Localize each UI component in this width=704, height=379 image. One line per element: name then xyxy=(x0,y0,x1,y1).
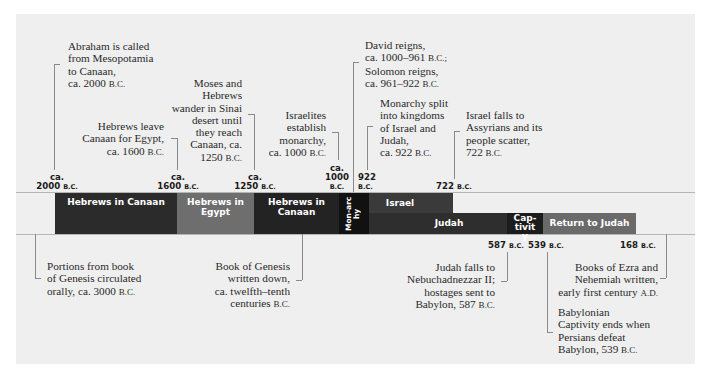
band-hebrews-in-canaan-2: Hebrews in Canaan xyxy=(254,193,339,234)
leader-line-monarchy xyxy=(338,132,339,160)
band-return-to-judah: Return to Judah xyxy=(543,213,636,234)
band-label: Israel xyxy=(386,198,414,208)
band-monarchy: Mon-archy xyxy=(339,193,369,234)
band-label: Judah xyxy=(435,218,464,228)
note-portions-genesis: Portions from book of Genesis circulated… xyxy=(47,260,141,298)
leader-line-portions xyxy=(35,234,36,278)
band-label: Hebrews in Canaan xyxy=(265,197,329,217)
note-ezra-nehemiah: Books of Ezra and Nehemiah written, earl… xyxy=(550,261,658,299)
date-label-722: 722 B.C. xyxy=(436,182,486,192)
leader-tick-genesis xyxy=(296,280,302,281)
note-judah-falls: Judah falls to Nebuchadnezzar II; hostag… xyxy=(395,261,495,311)
leader-line-captivity-ends xyxy=(547,252,548,332)
note-monarchy: Israelites establish monarchy, ca. 1000 … xyxy=(254,109,326,159)
note-captivity-ends: Babylonian Captivity ends when Persians … xyxy=(558,306,650,356)
leader-tick-monarchy xyxy=(332,132,338,133)
leader-line-ezra xyxy=(666,234,667,278)
leader-tick-captivity-ends xyxy=(547,332,553,333)
band-hebrews-in-canaan-1: Hebrews in Canaan xyxy=(55,193,177,234)
leader-line-split xyxy=(367,126,368,170)
date-label-1600: ca.1600 B.C. xyxy=(153,173,203,192)
date-label-922: 922B.C. xyxy=(358,173,380,192)
leader-line-israel-falls xyxy=(454,131,455,179)
note-israel-falls: Israel falls to Assyrians and its people… xyxy=(466,109,542,159)
leader-line-david xyxy=(353,62,354,192)
band-israel: Israel xyxy=(369,193,453,213)
leader-line-abraham xyxy=(54,64,55,170)
note-david-solomon: David reigns, ca. 1000–961 B.C.; Solomon… xyxy=(365,39,447,90)
date-label-2000: ca.2000 B.C. xyxy=(32,173,82,192)
leader-tick-israel-falls xyxy=(454,131,460,132)
band-judah: Judah xyxy=(369,213,507,234)
leader-tick-abraham xyxy=(54,64,60,65)
note-genesis-written: Book of Genesis written down, ca. twelft… xyxy=(196,260,290,310)
date-label-1250: ca.1250 B.C. xyxy=(230,173,280,192)
band-label: Return to Judah xyxy=(549,218,629,228)
band-label: Hebrews in Egypt xyxy=(186,197,246,217)
axis-bottom-line xyxy=(16,234,695,235)
timeline-figure: Hebrews in Canaan Hebrews in Egypt Hebre… xyxy=(0,0,704,379)
band-label: Hebrews in Canaan xyxy=(67,197,165,207)
band-label: Mon-archy xyxy=(345,196,363,232)
leader-tick-judah-falls xyxy=(501,281,507,282)
leader-tick-david xyxy=(353,62,359,63)
band-captivity: Cap-tivity xyxy=(507,213,543,234)
note-monarchy-split: Monarchy split into kingdoms of Israel a… xyxy=(380,97,448,159)
band-label: Cap-tivity xyxy=(513,214,537,241)
leader-tick-portions xyxy=(35,278,41,279)
note-abraham: Abraham is called from Mesopotamia to Ca… xyxy=(68,40,153,90)
leader-tick-ezra xyxy=(660,278,666,279)
date-label-1000: ca.1000B.C. xyxy=(322,164,352,192)
leader-line-genesis xyxy=(302,234,303,280)
leader-line-judah-falls xyxy=(507,252,508,281)
note-leave-canaan: Hebrews leave Canaan for Egypt, ca. 1600… xyxy=(66,120,164,158)
band-hebrews-in-egypt: Hebrews in Egypt xyxy=(177,193,254,234)
note-moses: Moses and Hebrews wander in Sinai desert… xyxy=(160,77,242,164)
date-label-539: 539 B.C. xyxy=(528,241,578,251)
leader-tick-split xyxy=(367,126,373,127)
date-label-168: 168 B.C. xyxy=(620,241,670,251)
